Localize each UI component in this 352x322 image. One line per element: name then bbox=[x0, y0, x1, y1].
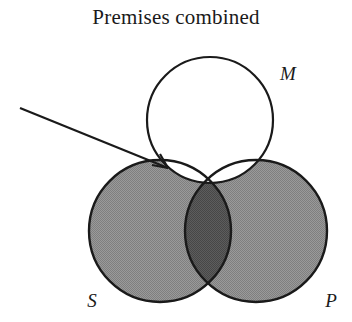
label-p: P bbox=[324, 290, 337, 311]
venn-diagram-figure: Premises combined bbox=[0, 0, 352, 322]
pointer-arrow bbox=[20, 108, 168, 168]
venn-diagram-canvas: M S P bbox=[0, 0, 352, 322]
arrow-shaft bbox=[20, 108, 168, 168]
label-m: M bbox=[279, 63, 297, 84]
label-s: S bbox=[87, 290, 97, 311]
